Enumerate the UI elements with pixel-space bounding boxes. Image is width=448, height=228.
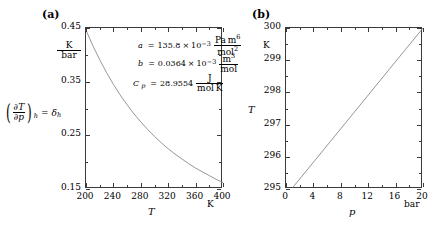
annotation-times: × <box>186 59 197 68</box>
annotation-symbol: C <box>133 79 141 88</box>
partial-num: ∂T <box>13 103 26 112</box>
annotation-equals: = <box>145 59 158 68</box>
y-unit-denominator: bar <box>57 50 81 60</box>
annotation-exponent: −3 <box>201 40 211 48</box>
annotation-unit-denominator: mol K <box>196 83 223 93</box>
x-tick-major <box>196 28 197 32</box>
panel-a-label: (a) <box>42 8 60 21</box>
y-tick-label: 297 <box>255 119 281 128</box>
panel-b-plot-area <box>285 27 422 188</box>
x-tick-label: 200 <box>73 192 97 201</box>
annotation-times: × <box>180 41 191 50</box>
x-tick-major <box>396 28 397 32</box>
annotation-unit-fraction: Jmol K <box>196 74 223 94</box>
annotation-symbol: b <box>138 59 145 68</box>
y-tick-minor <box>86 55 88 56</box>
y-tick-label: 0.25 <box>55 129 81 138</box>
x-tick-minor <box>355 28 356 30</box>
y-tick-major <box>286 125 290 126</box>
y-tick-minor <box>286 173 288 174</box>
x-tick-minor <box>209 185 210 187</box>
y-tick-label: 0.45 <box>55 22 81 31</box>
x-tick-minor <box>127 185 128 187</box>
x-tick-major <box>423 183 424 187</box>
panel-a-x-title: T <box>148 206 155 217</box>
x-tick-major <box>113 28 114 32</box>
y-tick-major <box>417 60 421 61</box>
panel-a-y-unit: K bar <box>57 41 81 61</box>
y-tick-minor <box>86 162 88 163</box>
y-tick-major <box>286 157 290 158</box>
x-tick-major <box>141 183 142 187</box>
panel-b-curve-layer <box>286 28 421 187</box>
x-tick-major <box>341 28 342 32</box>
y-tick-minor <box>286 44 288 45</box>
y-tick-label: 0.35 <box>55 76 81 85</box>
annotation-unit-numerator: J <box>196 74 223 83</box>
y-tick-minor <box>286 109 288 110</box>
equals-sign: = <box>38 108 52 118</box>
panel-b-y-unit: K <box>263 40 270 50</box>
panel-b-x-title: p <box>349 206 355 217</box>
x-tick-major <box>196 183 197 187</box>
panel-b-x-unit: bar <box>404 199 419 209</box>
annotation-value: 0.0364 <box>158 59 186 68</box>
annotation-exponent: −3 <box>207 58 217 66</box>
x-tick-minor <box>327 28 328 30</box>
y-tick-label: 298 <box>255 86 281 95</box>
y-tick-label: 299 <box>255 54 281 63</box>
annotation-base: 10 <box>197 59 207 68</box>
figure-container: (a) ( ∂T ∂p ) h = δ h K bar <box>0 0 448 228</box>
y-tick-minor <box>219 109 221 110</box>
panel-a-x-unit: K <box>207 199 214 209</box>
y-tick-major <box>417 157 421 158</box>
annotation-row: Cp=28.9554Jmol K <box>133 74 223 94</box>
x-tick-minor <box>409 28 410 30</box>
y-tick-minor <box>419 44 421 45</box>
y-tick-major <box>417 189 421 190</box>
x-tick-label: 280 <box>128 192 152 201</box>
x-tick-minor <box>409 185 410 187</box>
y-tick-major <box>417 28 421 29</box>
x-tick-major <box>86 28 87 32</box>
y-tick-minor <box>419 141 421 142</box>
x-tick-major <box>423 28 424 32</box>
annotation-symbol: a <box>138 41 145 50</box>
x-tick-major <box>141 28 142 32</box>
annotation-equals: = <box>147 79 160 88</box>
x-tick-minor <box>382 28 383 30</box>
annotation-base: 10 <box>191 41 201 50</box>
x-tick-major <box>396 183 397 187</box>
x-tick-minor <box>100 28 101 30</box>
y-tick-minor <box>419 173 421 174</box>
x-tick-minor <box>300 28 301 30</box>
panel-b-curve <box>286 28 423 189</box>
y-tick-major <box>86 82 90 83</box>
y-tick-major <box>217 135 221 136</box>
x-tick-label: 8 <box>328 192 352 201</box>
x-tick-minor <box>382 185 383 187</box>
partial-subscript: h <box>34 112 38 120</box>
panel-b-label: (b) <box>252 8 270 21</box>
x-tick-minor <box>127 28 128 30</box>
annotation-value: 135.8 <box>157 41 180 50</box>
y-tick-minor <box>286 76 288 77</box>
x-tick-label: 240 <box>100 192 124 201</box>
y-tick-minor <box>286 141 288 142</box>
y-tick-major <box>217 28 221 29</box>
x-tick-minor <box>182 185 183 187</box>
y-tick-minor <box>86 109 88 110</box>
x-tick-label: 12 <box>355 192 379 201</box>
y-tick-major <box>86 135 90 136</box>
panel-b-y-title: T <box>248 104 255 115</box>
x-tick-major <box>368 28 369 32</box>
y-tick-label: 296 <box>255 151 281 160</box>
y-tick-label: 295 <box>255 183 281 192</box>
y-tick-major <box>286 60 290 61</box>
y-tick-minor <box>419 109 421 110</box>
x-tick-label: 16 <box>383 192 407 201</box>
y-tick-major <box>286 92 290 93</box>
x-tick-major <box>168 183 169 187</box>
partial-derivative-fraction: ∂T ∂p <box>13 103 26 123</box>
x-tick-minor <box>155 185 156 187</box>
